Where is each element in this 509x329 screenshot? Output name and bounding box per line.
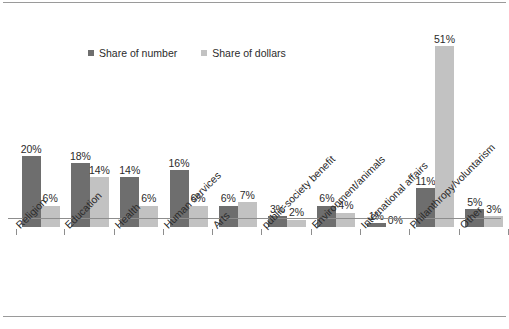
bar-value-label: 6% [221, 193, 236, 204]
bar-value-label: 51% [434, 34, 455, 45]
bar-slot: 6% [139, 16, 158, 227]
bar-value-label: 3% [486, 204, 501, 215]
bar-slot: 3% [484, 16, 503, 227]
bar-value-label: 20% [21, 144, 42, 155]
chart-figure: Share of number Share of dollars 20%6%18… [0, 0, 509, 329]
x-axis-label-cell: Education [57, 219, 106, 319]
top-rule [3, 2, 506, 3]
x-axis-label-cell: Health [107, 219, 156, 319]
x-axis-label-cell: Philanthropy/voluntarism [402, 219, 451, 319]
bar-value-label: 7% [240, 190, 255, 201]
x-axis-labels: ReligionEducationHealthHuman servicesArt… [8, 219, 501, 319]
bar-slot: 14% [120, 16, 139, 227]
bar-slot: 5% [465, 16, 484, 227]
bar-slot: 6% [219, 16, 238, 227]
x-axis-label-cell: Arts [205, 219, 254, 319]
x-axis-label-cell: International affairs [353, 219, 402, 319]
bar-slot: 16% [170, 16, 189, 227]
plot-area: 20%6%18%14%14%6%16%6%6%7%3%2%6%4%1%0%11%… [8, 8, 501, 219]
bar-value-label: 6% [141, 193, 156, 204]
bar-value-label: 2% [289, 207, 304, 218]
x-axis-label-cell: Human services [156, 219, 205, 319]
bar-slot: 1% [367, 16, 386, 227]
bar-slot: 7% [238, 16, 257, 227]
x-axis-label-cell: Environment/animals [304, 219, 353, 319]
bar-value-label: 18% [70, 151, 91, 162]
bar-slot: 6% [41, 16, 60, 227]
bar-group: 14%6% [115, 16, 164, 227]
bar-group: 5%3% [460, 16, 509, 227]
x-axis-label-cell: Other [452, 219, 501, 319]
x-axis-label-cell: Religion [8, 219, 57, 319]
bar-slot: 20% [22, 16, 41, 227]
bar-value-label: 14% [89, 165, 110, 176]
bar-slot: 6% [317, 16, 336, 227]
bar-group: 6%7% [213, 16, 262, 227]
bar-value-label: 14% [119, 165, 140, 176]
bar-value-label: 16% [169, 158, 190, 169]
bar-slot: 11% [416, 16, 435, 227]
bar-slot: 18% [71, 16, 90, 227]
x-axis-label-cell: public-society benefit [254, 219, 303, 319]
